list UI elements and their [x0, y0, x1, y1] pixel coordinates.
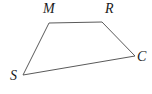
geometry-diagram: M R C S — [0, 0, 152, 94]
vertex-label-s: S — [10, 69, 17, 83]
vertex-label-m: M — [43, 2, 55, 16]
quadrilateral-figure — [0, 0, 152, 94]
vertex-label-c: C — [137, 50, 146, 64]
quadrilateral-outline — [23, 22, 135, 75]
vertex-label-r: R — [105, 2, 114, 16]
